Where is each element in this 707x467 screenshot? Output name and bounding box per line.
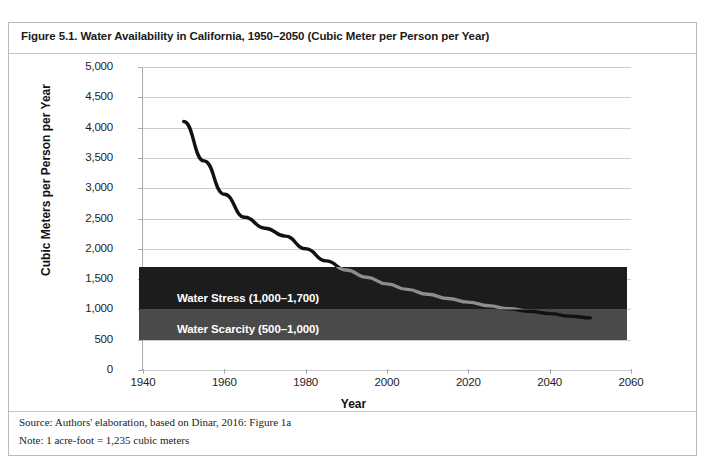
y-axis-tick-label: 1,500 — [53, 272, 113, 284]
data-series-line — [9, 23, 698, 457]
data-note: Note: 1 acre-foot = 1,235 cubic meters — [19, 434, 189, 446]
y-axis-tick-label: 4,000 — [53, 121, 113, 133]
y-axis-tick-label: 3,000 — [53, 181, 113, 193]
chart-canvas: Water Stress (1,000–1,700)Water Scarcity… — [9, 23, 698, 457]
y-axis-tick-label: 2,000 — [53, 242, 113, 254]
x-axis-tick — [306, 369, 307, 374]
x-axis-tick — [387, 369, 388, 374]
series-path-band-overlay — [184, 122, 591, 318]
x-axis-tick — [143, 369, 144, 374]
x-axis-tick-label: 2040 — [520, 376, 580, 388]
x-axis-tick-label: 2060 — [601, 376, 661, 388]
x-axis-tick — [224, 369, 225, 374]
source-note: Source: Authors' elaboration, based on D… — [19, 416, 291, 428]
y-axis-title: Cubic Meters per Person per Year — [39, 65, 53, 295]
y-axis-tick-label: 3,500 — [53, 151, 113, 163]
y-axis-tick-label: 5,000 — [53, 60, 113, 72]
y-axis-tick-label: 2,500 — [53, 212, 113, 224]
x-axis-title: Year — [9, 397, 698, 411]
y-axis-tick-label: 4,500 — [53, 90, 113, 102]
x-axis-tick — [550, 369, 551, 374]
x-axis-tick-label: 1980 — [276, 376, 336, 388]
x-axis-tick — [468, 369, 469, 374]
figure-container: Figure 5.1. Water Availability in Califo… — [8, 22, 697, 456]
y-axis-tick-label: 500 — [53, 333, 113, 345]
y-axis-tick-label: 0 — [53, 363, 113, 375]
y-axis-tick-label: 1,000 — [53, 302, 113, 314]
x-axis-tick — [631, 369, 632, 374]
x-axis-tick-label: 1940 — [113, 376, 173, 388]
footer-divider — [9, 411, 696, 412]
x-axis-tick-label: 2000 — [357, 376, 417, 388]
series-path — [184, 122, 591, 318]
x-axis-tick-label: 2020 — [438, 376, 498, 388]
x-axis-tick-label: 1960 — [194, 376, 254, 388]
